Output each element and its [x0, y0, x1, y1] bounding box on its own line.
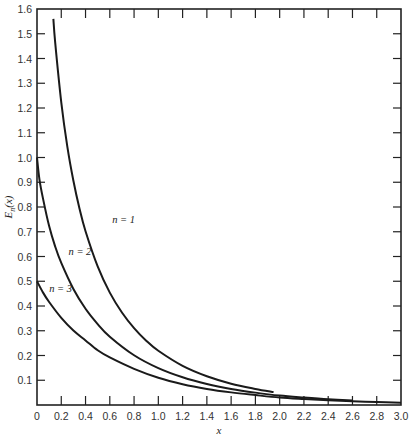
y-tick-label: 0.1	[17, 374, 32, 386]
x-tick-label: 2.6	[345, 410, 360, 422]
x-tick-label: 0.4	[78, 410, 93, 422]
x-tick-label: 1.4	[200, 410, 215, 422]
x-tick-label: 0	[34, 410, 40, 422]
y-tick-label: 0.3	[17, 325, 32, 337]
y-tick-label: 1.5	[17, 28, 32, 40]
y-tick-label: 1.6	[17, 3, 32, 15]
y-tick-label: 0.5	[17, 275, 32, 287]
x-tick-label: 1.2	[175, 410, 190, 422]
y-tick-label: 1.1	[17, 127, 32, 139]
x-tick-label: 0.8	[127, 410, 142, 422]
series-label: n = 1	[112, 214, 135, 225]
series-label: n = 3	[49, 283, 72, 294]
x-tick-label: 0.6	[102, 410, 117, 422]
y-tick-label: 1.4	[17, 53, 32, 65]
y-tick-label: 0.2	[17, 350, 32, 362]
y-tick-label: 0.8	[17, 201, 32, 213]
series-line-n3	[37, 281, 401, 403]
series-line-n2	[37, 158, 352, 401]
series-line-n1	[53, 19, 273, 392]
x-tick-label: 2.8	[369, 410, 384, 422]
x-tick-label: 2.4	[321, 410, 336, 422]
x-axis-ticks: 00.20.40.60.81.01.21.41.61.82.02.22.42.6…	[34, 9, 408, 422]
x-tick-label: 1.6	[224, 410, 239, 422]
x-tick-label: 1.8	[248, 410, 263, 422]
x-tick-label: 2.2	[297, 410, 312, 422]
chart-canvas: 00.20.40.60.81.01.21.41.61.82.02.22.42.6…	[0, 0, 412, 435]
series-label: n = 2	[69, 246, 93, 257]
y-tick-label: 1.3	[17, 77, 32, 89]
y-tick-label: 0.6	[17, 251, 32, 263]
y-tick-label: 0.7	[17, 226, 32, 238]
y-tick-label: 1.0	[17, 152, 32, 164]
y-tick-label: 1.2	[17, 102, 32, 114]
y-tick-label: 0.4	[17, 300, 32, 312]
y-tick-label: 0.9	[17, 176, 32, 188]
x-tick-label: 2.0	[272, 410, 287, 422]
x-tick-label: 3.0	[394, 410, 409, 422]
x-tick-label: 1.0	[151, 410, 166, 422]
x-axis-title: x	[216, 424, 222, 435]
x-tick-label: 0.2	[54, 410, 69, 422]
y-axis-ticks: 0.10.20.30.40.50.60.70.80.91.01.11.21.31…	[17, 3, 401, 386]
y-axis-title: En(x)	[2, 195, 17, 219]
series-curves	[37, 19, 401, 403]
